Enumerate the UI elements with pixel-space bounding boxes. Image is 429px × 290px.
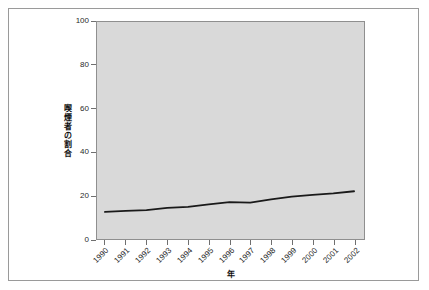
x-axis-tick-label: 1995 <box>196 246 215 265</box>
x-axis-tick-mark <box>146 240 147 245</box>
y-axis-title-char: 合 <box>62 149 74 158</box>
y-axis-tick-label: 60 <box>80 103 89 115</box>
x-axis-tick-mark <box>271 240 272 245</box>
chart-figure: 020406080100 喫煙者の割合 19901991199219931994… <box>0 0 429 290</box>
y-axis-title-char: 煙 <box>62 113 74 122</box>
x-axis-tick-mark <box>292 240 293 245</box>
x-axis-tick-label: 1997 <box>238 246 257 265</box>
x-axis-tick-mark <box>334 240 335 245</box>
x-axis-tick-label: 1996 <box>217 246 236 265</box>
x-axis-tick-mark <box>188 240 189 245</box>
plot-area <box>96 21 365 240</box>
x-axis-title: 年 <box>96 268 365 279</box>
x-axis-ticks: 1990199119921993199419951996199719981999… <box>96 240 365 290</box>
data-line-svg <box>97 22 364 239</box>
y-axis-title-char: の <box>62 131 74 140</box>
data-line-series <box>105 191 354 212</box>
y-axis-title: 喫煙者の割合 <box>62 104 74 158</box>
y-axis-ticks: 020406080100 <box>0 0 96 290</box>
x-axis-tick-label: 2002 <box>342 246 361 265</box>
y-axis-tick-label: 40 <box>80 146 89 158</box>
x-axis-tick-mark <box>167 240 168 245</box>
x-axis-tick-mark <box>355 240 356 245</box>
y-axis-tick-label: 80 <box>80 59 89 71</box>
y-axis-tick-label: 100 <box>76 15 89 27</box>
x-axis-tick-label: 1999 <box>280 246 299 265</box>
y-axis-tick-label: 0 <box>85 234 89 246</box>
x-axis-tick-mark <box>230 240 231 245</box>
x-axis-tick-mark <box>209 240 210 245</box>
x-axis-tick-label: 1993 <box>154 246 173 265</box>
y-axis-title-char: 者 <box>62 122 74 131</box>
x-axis-tick-mark <box>104 240 105 245</box>
x-axis-tick-mark <box>125 240 126 245</box>
x-axis-tick-label: 1994 <box>175 246 194 265</box>
x-axis-tick-label: 1991 <box>112 246 131 265</box>
x-axis-tick-mark <box>313 240 314 245</box>
x-axis-tick-label: 2001 <box>321 246 340 265</box>
x-axis-tick-mark <box>250 240 251 245</box>
y-axis-title-char: 喫 <box>62 104 74 113</box>
y-axis-title-char: 割 <box>62 140 74 149</box>
x-axis-tick-label: 1992 <box>133 246 152 265</box>
y-axis-tick-label: 20 <box>80 190 89 202</box>
x-axis-tick-label: 1998 <box>259 246 278 265</box>
x-axis-tick-label: 2000 <box>301 246 320 265</box>
